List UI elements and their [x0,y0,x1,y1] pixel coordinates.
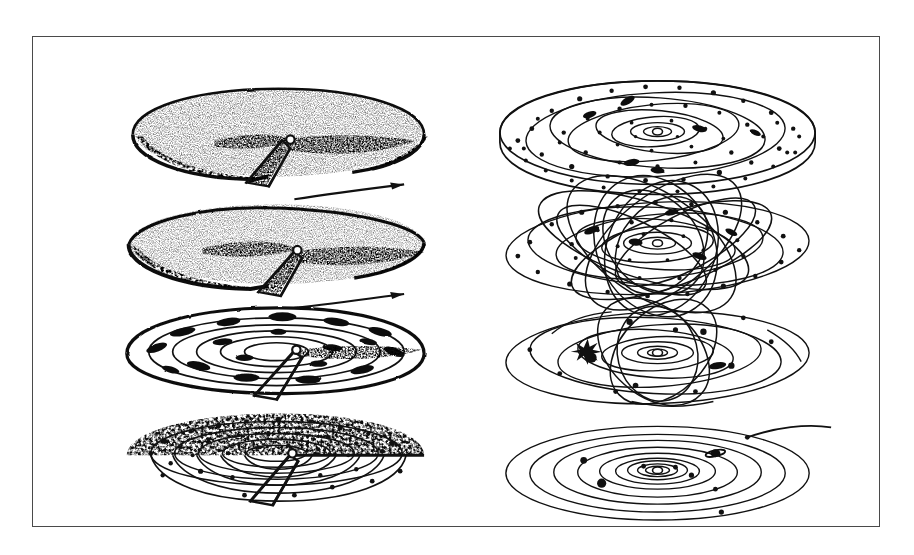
panel-right-3 [504,276,810,426]
panel-left-4 [127,413,424,506]
collision-starburst-r3 [571,339,602,365]
ringed-planet-r4 [705,448,726,458]
rotation-arrow-stage-2 [294,292,404,308]
panel-left-2 [129,204,426,308]
solar-system-formation-illustration [33,37,879,526]
figure-frame [32,36,880,527]
panel-left-1 [133,89,428,200]
central-sun-r1 [653,128,663,135]
protosun-marker-3 [292,346,300,354]
panel-left-3 [127,308,424,401]
planet-inner-2 [673,465,678,470]
protosun-marker [286,135,294,143]
midplane-dust-lane-3 [300,346,422,359]
panel-right-4 [506,426,831,520]
planet-inner-1 [641,464,646,469]
central-sun-r2 [653,240,663,247]
planet-outer-1 [713,487,718,492]
planet-outer-2 [719,509,724,514]
central-sun-r4 [653,467,663,474]
figure-root [0,0,914,555]
planet-mid-1 [597,479,606,488]
rotation-arrow-stage-1 [294,182,404,199]
coplanar-orbits-r2 [504,194,812,301]
planet-mid-2 [580,457,587,464]
disk-wedge-cutaway-4 [249,454,298,506]
orbits-r3 [504,307,810,409]
protosun-marker-4 [288,449,296,457]
protosun-marker-2 [293,246,301,254]
central-sun-r3 [653,349,663,356]
planet-inner-3 [689,473,694,478]
